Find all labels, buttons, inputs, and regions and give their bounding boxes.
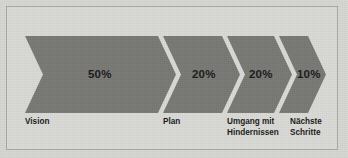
value-label-vision: 50%: [88, 68, 112, 80]
category-label-plan-line-1: Plan: [163, 116, 180, 127]
value-label-plan: 20%: [192, 68, 216, 80]
value-label-umgang-mit-hindernissen: 20%: [249, 68, 273, 80]
category-label-umgang-mit-hindernissen: Umgang mit Hindernissen: [227, 116, 279, 138]
category-label-naechste-line-1: Nächste: [290, 116, 322, 127]
category-label-vision: Vision: [25, 116, 49, 127]
category-label-umgang-line-1: Umgang mit: [227, 116, 279, 127]
category-label-plan: Plan: [163, 116, 180, 127]
category-label-vision-line-1: Vision: [25, 116, 49, 127]
value-label-naechste-schritte: 10%: [297, 68, 321, 80]
category-label-naechste-line-2: Schritte: [290, 127, 322, 138]
category-label-naechste-schritte: Nächste Schritte: [290, 116, 322, 138]
category-label-umgang-line-2: Hindernissen: [227, 127, 279, 138]
figure-canvas: 50% 20% 20% 10% Vision Plan Umgang mit H…: [0, 0, 348, 158]
